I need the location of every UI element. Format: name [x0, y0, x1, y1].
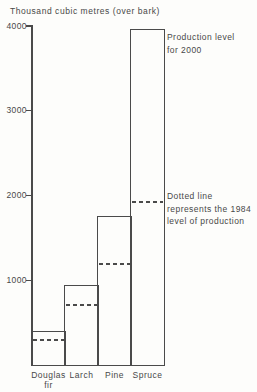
- chart-title: Thousand cubic metres (over bark): [10, 6, 160, 16]
- y-axis-line: [31, 25, 33, 366]
- y-tick-label-3000: 3000: [3, 105, 27, 115]
- dashed-1984-level-pine: [99, 263, 131, 265]
- bar-pine: [97, 216, 132, 366]
- dashed-1984-level-douglas-fir: [33, 339, 65, 341]
- y-tick-label-2000: 2000: [3, 190, 27, 200]
- annotation-1984-level: Dotted line represents the 1984 level of…: [167, 190, 251, 228]
- dashed-1984-level-larch: [66, 304, 98, 306]
- bar-douglas-fir: [31, 331, 66, 366]
- annotation-production-2000: Production level for 2000: [167, 31, 235, 56]
- scanned-bar-chart: Thousand cubic metres (over bark) Produc…: [0, 0, 257, 392]
- bar-spruce: [130, 29, 165, 366]
- bar-larch: [64, 285, 99, 366]
- y-tick-label-4000: 4000: [3, 21, 27, 31]
- dashed-1984-level-spruce: [132, 201, 164, 203]
- y-tick-label-1000: 1000: [3, 275, 27, 285]
- x-label-spruce: Spruce: [118, 370, 178, 380]
